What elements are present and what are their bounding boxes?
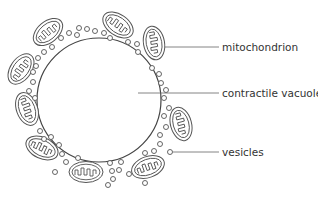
contractile-vacuole-shape bbox=[37, 38, 161, 162]
label-vesicles: vesicles bbox=[222, 146, 264, 158]
label-mitochondrion: mitochondrion bbox=[222, 41, 298, 53]
label-contractile-vacuole: contractile vacuole bbox=[222, 87, 318, 99]
vacuole-diagram bbox=[0, 0, 318, 199]
